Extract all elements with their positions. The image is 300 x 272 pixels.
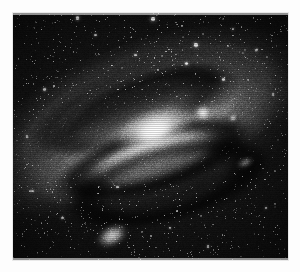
bright-star-1 [151, 17, 155, 21]
astronomical-photograph [13, 13, 288, 260]
plate-trim-bottom [13, 258, 288, 260]
page-canvas [0, 0, 300, 272]
bright-star-8 [94, 34, 96, 36]
bright-star-13 [265, 207, 268, 210]
bright-star-0 [76, 16, 79, 19]
bright-star-14 [207, 245, 209, 247]
bright-star-12 [169, 227, 171, 229]
plate-trim-top [13, 13, 288, 15]
